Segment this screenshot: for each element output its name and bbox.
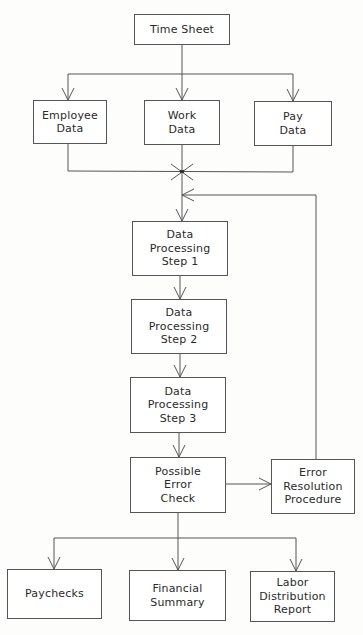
node-time-sheet: Time Sheet [134, 14, 230, 45]
node-work-data: Work Data [144, 100, 220, 145]
node-data-processing-step-3: Data Processing Step 3 [130, 377, 226, 433]
node-possible-error-check: Possible Error Check [130, 457, 226, 513]
node-pay-data: Pay Data [254, 101, 332, 146]
node-data-processing-step-1: Data Processing Step 1 [132, 221, 228, 276]
node-financial-summary: Financial Summary [129, 570, 226, 621]
node-employee-data: Employee Data [33, 100, 107, 144]
node-data-processing-step-2: Data Processing Step 2 [131, 299, 227, 354]
node-labor-distribution-report: Labor Distribution Report [250, 571, 335, 622]
node-error-resolution-procedure: Error Resolution Procedure [271, 459, 355, 514]
node-paychecks: Paychecks [7, 569, 102, 619]
flowchart-canvas: Time Sheet Employee Data Work Data Pay D… [0, 0, 363, 635]
